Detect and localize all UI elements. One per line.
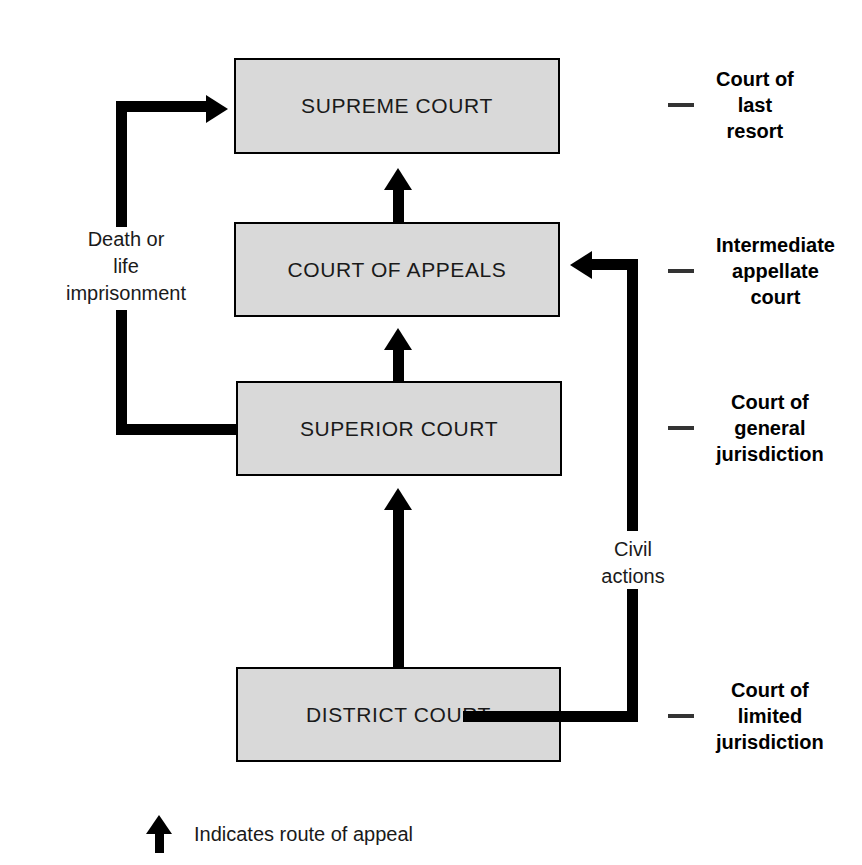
court-label-superior: SUPERIOR COURT (300, 417, 498, 441)
legend-arrow-shaft (155, 831, 164, 853)
arrow-superior-to-appeals-head-icon (384, 328, 412, 350)
side-label-limited-line-3: jurisdiction (716, 729, 824, 755)
route-district-to-appeals-lower-vertical (627, 589, 638, 717)
side-label-general-line-1: Court of (716, 389, 824, 415)
arrow-district-to-superior-shaft (393, 510, 404, 667)
arrow-appeals-to-supreme-head-icon (384, 168, 412, 190)
legend-text: Indicates route of appeal (194, 823, 413, 846)
route-superior-to-supreme-upper-vertical (116, 101, 127, 227)
bracket-limited-jurisdiction-icon (668, 714, 694, 718)
side-annotation-limited-jurisdiction: Court of limited jurisdiction (668, 664, 824, 767)
side-label-limited-line-2: limited (716, 703, 824, 729)
legend: Indicates route of appeal (146, 815, 413, 853)
caption-civil-line-2: actions (573, 563, 693, 590)
side-label-general-jurisdiction: Court of general jurisdiction (716, 389, 824, 467)
arrow-superior-to-appeals-shaft (393, 350, 404, 381)
side-annotation-last-resort: Court of last resort (668, 55, 794, 155)
side-label-general-line-3: jurisdiction (716, 441, 824, 467)
court-label-supreme: SUPREME COURT (301, 94, 493, 118)
caption-death-line-2: life (26, 253, 226, 280)
route-district-to-appeals-head-icon (570, 251, 592, 279)
route-caption-civil-actions: Civil actions (573, 536, 693, 590)
court-system-diagram: SUPREME COURT COURT OF APPEALS SUPERIOR … (0, 0, 862, 865)
route-district-to-appeals-bottom-segment (463, 711, 638, 722)
arrow-appeals-to-supreme-shaft (393, 190, 404, 222)
court-box-superior: SUPERIOR COURT (236, 381, 562, 476)
side-label-intermediate-appellate: Intermediate appellate court (716, 232, 835, 310)
bracket-last-resort-icon (668, 103, 694, 107)
court-box-appeals: COURT OF APPEALS (234, 222, 560, 317)
side-annotation-general-jurisdiction: Court of general jurisdiction (668, 375, 824, 480)
route-superior-to-supreme-head-icon (206, 95, 228, 123)
caption-death-line-3: imprisonment (26, 280, 226, 307)
caption-death-line-1: Death or (26, 226, 226, 253)
side-label-limited-jurisdiction: Court of limited jurisdiction (716, 677, 824, 755)
route-superior-to-supreme-top-segment (116, 101, 210, 112)
side-label-last-resort-line-2: last (716, 92, 794, 118)
side-label-last-resort: Court of last resort (716, 66, 794, 144)
side-label-last-resort-line-1: Court of (716, 66, 794, 92)
route-superior-to-supreme-bottom-segment (116, 424, 236, 435)
legend-up-arrow-icon (146, 815, 172, 853)
route-caption-death-or-life-imprisonment: Death or life imprisonment (26, 226, 226, 307)
bracket-intermediate-appellate-icon (668, 269, 694, 273)
side-label-intermediate-line-3: court (716, 284, 835, 310)
arrow-district-to-superior-head-icon (384, 488, 412, 510)
side-label-last-resort-line-3: resort (716, 118, 794, 144)
bracket-general-jurisdiction-icon (668, 426, 694, 430)
side-label-intermediate-line-2: appellate (716, 258, 835, 284)
route-district-to-appeals-top-segment (592, 259, 638, 270)
route-district-to-appeals-upper-vertical (627, 259, 638, 531)
route-superior-to-supreme-lower-vertical (116, 310, 127, 430)
side-label-limited-line-1: Court of (716, 677, 824, 703)
court-label-appeals: COURT OF APPEALS (288, 258, 507, 282)
side-label-intermediate-line-1: Intermediate (716, 232, 835, 258)
side-label-general-line-2: general (716, 415, 824, 441)
side-annotation-intermediate-appellate: Intermediate appellate court (668, 221, 835, 321)
caption-civil-line-1: Civil (573, 536, 693, 563)
court-box-supreme: SUPREME COURT (234, 58, 560, 154)
